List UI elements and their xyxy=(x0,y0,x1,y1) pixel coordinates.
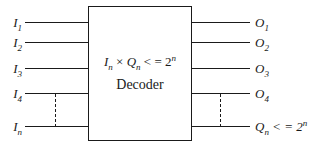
input-ellipsis-dashed-line xyxy=(55,94,56,127)
output-label-o2: O2 xyxy=(255,36,269,49)
output-wire-qn xyxy=(192,126,250,127)
output-label-o2-sub: 2 xyxy=(264,43,269,53)
input-label-i2: I2 xyxy=(0,36,22,49)
input-wire-i1 xyxy=(25,22,88,23)
output-label-qn-relation: < = 2 xyxy=(269,119,303,134)
output-label-o4-base: O xyxy=(255,86,264,101)
output-label-o1-sub: 1 xyxy=(264,23,269,33)
input-wire-i3 xyxy=(25,68,88,69)
input-label-i3: I3 xyxy=(0,62,22,75)
output-ellipsis-dashed-line xyxy=(220,94,221,127)
input-label-i2-sub: 2 xyxy=(18,43,23,53)
input-label-i1: I1 xyxy=(0,16,22,29)
output-wire-o4 xyxy=(192,93,250,94)
input-label-i4: I4 xyxy=(0,87,22,100)
output-wire-o2 xyxy=(192,42,250,43)
input-label-in-sub: n xyxy=(18,127,23,137)
input-label-i1-sub: 1 xyxy=(18,23,23,33)
formula-var2: Q xyxy=(127,54,136,69)
output-wire-o1 xyxy=(192,22,250,23)
input-label-i3-sub: 3 xyxy=(18,69,23,79)
output-label-o4: O4 xyxy=(255,87,269,100)
input-label-i4-sub: 4 xyxy=(18,94,23,104)
decoder-formula: In × Qn < = 2n xyxy=(104,54,176,70)
decoder-box: In × Qn < = 2n Decoder xyxy=(88,6,192,141)
input-wire-i2 xyxy=(25,42,88,43)
decoder-title: Decoder xyxy=(116,77,163,93)
output-label-o3-base: O xyxy=(255,61,264,76)
output-label-o2-base: O xyxy=(255,35,264,50)
input-wire-i4 xyxy=(25,93,88,94)
output-label-o1-base: O xyxy=(255,15,264,30)
input-label-in: In xyxy=(0,120,22,133)
output-label-o3: O3 xyxy=(255,62,269,75)
output-label-o4-sub: 4 xyxy=(264,94,269,104)
output-label-o1: O1 xyxy=(255,16,269,29)
formula-exponent: n xyxy=(172,53,177,63)
output-label-o3-sub: 3 xyxy=(264,69,269,79)
input-wire-in xyxy=(25,126,88,127)
formula-relation: < = 2 xyxy=(141,54,172,69)
multiply-sign: × xyxy=(113,54,127,69)
output-label-qn-exponent: n xyxy=(303,118,308,128)
decoder-diagram: In × Qn < = 2n Decoder I1 I2 I3 I4 In O1… xyxy=(0,0,310,148)
output-wire-o3 xyxy=(192,68,250,69)
output-label-qn-base: Q xyxy=(255,119,264,134)
output-label-qn: Qn < = 2n xyxy=(255,120,307,133)
